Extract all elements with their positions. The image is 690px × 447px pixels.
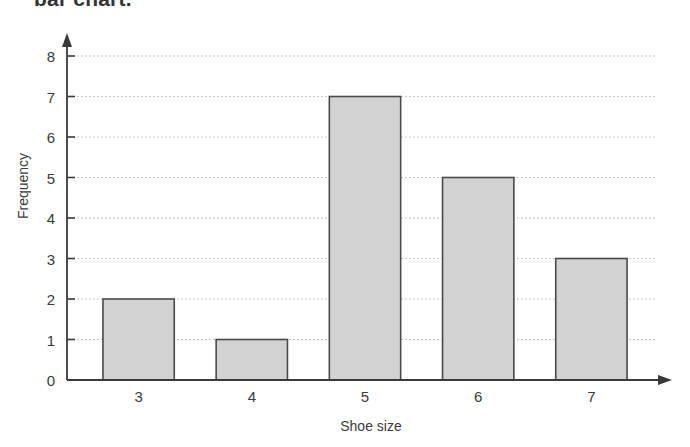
x-tick-label-3: 3 [134,388,142,405]
y-tick-label-8: 8 [47,48,55,65]
y-tick-label-6: 6 [47,129,55,146]
x-axis-ticks: 34567 [134,388,595,405]
x-axis-arrow-icon [658,375,672,385]
bar-chart-figure: bar chart. 01234567834567 Frequency Shoe… [0,0,690,447]
y-tick-label-5: 5 [47,170,55,187]
bar-4 [216,340,287,381]
x-axis-title: Shoe size [0,418,690,434]
x-tick-label-4: 4 [248,388,256,405]
bar-5 [329,97,400,381]
chart-canvas: 01234567834567 [0,0,690,447]
y-tick-label-2: 2 [47,291,55,308]
x-tick-label-6: 6 [474,388,482,405]
y-axis-arrow-icon [62,33,72,47]
bar-7 [556,259,627,381]
bar-3 [103,299,174,380]
x-tick-label-7: 7 [587,388,595,405]
bar-6 [443,178,514,381]
y-tick-label-0: 0 [47,372,55,389]
bars [103,97,627,381]
y-axis-ticks: 012345678 [47,48,75,389]
y-tick-label-4: 4 [47,210,55,227]
y-tick-label-3: 3 [47,251,55,268]
y-tick-label-1: 1 [47,332,55,349]
y-axis-title: Frequency [15,136,31,236]
x-tick-label-5: 5 [361,388,369,405]
y-tick-label-7: 7 [47,89,55,106]
